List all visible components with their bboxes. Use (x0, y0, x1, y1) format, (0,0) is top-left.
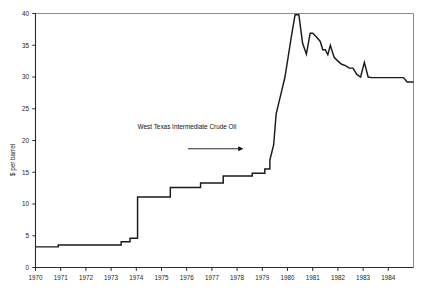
y-axis-title: $ per barrel (9, 144, 17, 176)
y-axis-tick-label: 40 (22, 10, 30, 17)
x-axis-tick-label: 1971 (54, 274, 69, 281)
x-axis-tick-label: 1974 (129, 274, 144, 281)
y-axis-tick-label: 35 (22, 42, 30, 49)
oil-price-line-chart: 0510152025303540 19701971197219731974197… (0, 0, 426, 297)
x-axis-tick-label: 1970 (28, 274, 43, 281)
y-axis-title-group: $ per barrel (9, 144, 17, 176)
x-axis-tick-label: 1984 (381, 274, 396, 281)
x-axis-tick-label: 1975 (154, 274, 169, 281)
x-axis-tick-label: 1981 (306, 274, 321, 281)
y-axis-tick-label: 0 (25, 264, 29, 271)
y-axis-tick-label: 15 (22, 169, 30, 176)
y-axis-tick-label: 5 (25, 232, 29, 239)
x-axis-tick-label: 1980 (280, 274, 295, 281)
x-axis-tick-label: 1983 (356, 274, 371, 281)
x-axis-tick-label: 1977 (205, 274, 220, 281)
chart-container: 0510152025303540 19701971197219731974197… (0, 0, 426, 297)
y-axis-tick-label: 10 (22, 200, 30, 207)
y-axis-tick-label: 30 (22, 73, 30, 80)
x-axis-tick-label: 1976 (180, 274, 195, 281)
y-axis-tick-label: 20 (22, 137, 30, 144)
y-axis-tick-label: 25 (22, 105, 30, 112)
x-axis-tick-label: 1978 (230, 274, 245, 281)
x-axis-tick-label: 1982 (331, 274, 346, 281)
x-axis-tick-label: 1972 (79, 274, 94, 281)
x-axis-tick-label: 1979 (255, 274, 270, 281)
x-axis-tick-label: 1973 (104, 274, 119, 281)
annotation-label: West Texas Intermediate Crude Oil (138, 123, 237, 130)
